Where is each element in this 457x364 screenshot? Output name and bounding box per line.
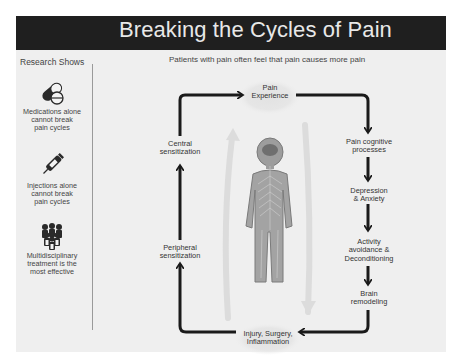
cycle-diagram (0, 0, 457, 364)
nervous-system-figure (246, 138, 292, 282)
faint-up-arrowhead (226, 128, 240, 141)
node-peripheral-sensitization: Peripheral sensitization (160, 244, 201, 261)
node-central-sensitization: Central sensitization (160, 140, 201, 157)
node-injury-surgery-inflammation: Injury, Surgery, Inflammation (243, 330, 292, 347)
node-pain-cognitive-processes: Pain cognitive processes (346, 138, 392, 155)
node-pain-experience: Pain Experience (252, 84, 289, 101)
node-brain-remodeling: Brain remodeling (351, 290, 388, 307)
node-activity-avoidance: Activity avoidance & Deconditioning (345, 238, 394, 263)
node-depression-anxiety: Depression & Anxiety (350, 187, 387, 204)
faint-down-arrowhead (301, 301, 316, 315)
